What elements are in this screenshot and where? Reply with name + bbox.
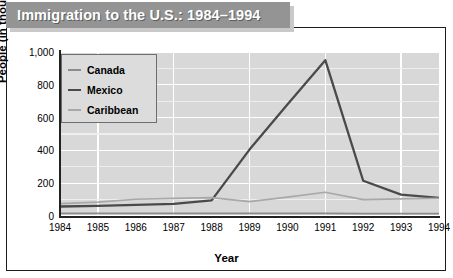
x-tick-label: 1989 (238, 222, 260, 233)
page-title: Immigration to the U.S.: 1984–1994 (6, 7, 261, 23)
x-axis-title: Year (0, 252, 453, 264)
y-tick-label: 1,000 (0, 47, 54, 58)
x-tick-label: 1987 (163, 222, 185, 233)
legend-swatch-caribbean (68, 109, 81, 111)
x-tick-label: 1984 (49, 222, 71, 233)
x-tick-label: 1990 (276, 222, 298, 233)
x-axis-line (59, 216, 440, 218)
x-tick-label: 1988 (200, 222, 222, 233)
legend-label-canada: Canada (87, 64, 125, 76)
legend-label-caribbean: Caribbean (87, 104, 138, 116)
chart-title-banner: Immigration to the U.S.: 1984–1994 (6, 2, 290, 28)
x-tick-label: 1992 (352, 222, 374, 233)
y-tick-label: 800 (0, 79, 54, 90)
series-line-caribbean (60, 192, 439, 203)
legend-label-mexico: Mexico (87, 84, 123, 96)
x-tick-label: 1986 (125, 222, 147, 233)
x-tick-label: 1985 (87, 222, 109, 233)
y-tick-label: 200 (0, 178, 54, 189)
legend-item-caribbean: Caribbean (68, 100, 156, 120)
chart-legend: Canada Mexico Caribbean (61, 54, 157, 123)
y-tick-label: 600 (0, 112, 54, 123)
legend-item-mexico: Mexico (68, 80, 156, 100)
legend-swatch-canada (68, 69, 81, 71)
x-tick-label: 1993 (390, 222, 412, 233)
x-tick-label: 1994 (428, 222, 450, 233)
legend-item-canada: Canada (68, 60, 156, 80)
x-tick-label: 1991 (314, 222, 336, 233)
legend-swatch-mexico (68, 89, 81, 91)
y-tick-label: 400 (0, 145, 54, 156)
y-tick-label: 0 (0, 211, 54, 222)
